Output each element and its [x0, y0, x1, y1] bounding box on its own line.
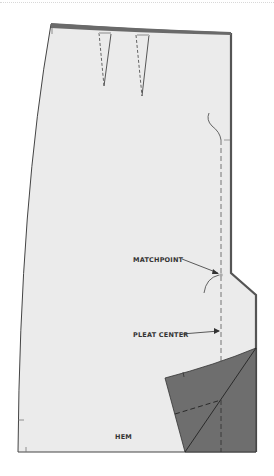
hem-label: HEM	[115, 433, 132, 441]
matchpoint-label: MATCHPOINT	[133, 256, 183, 264]
pleat-center-label: PLEAT CENTER	[133, 331, 189, 339]
pattern-drawing	[0, 0, 274, 476]
